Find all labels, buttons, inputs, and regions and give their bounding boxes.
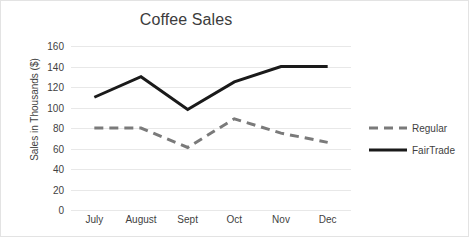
legend-swatch-regular <box>369 123 407 133</box>
legend-item-fairtrade[interactable]: FairTrade <box>369 139 455 161</box>
series-lines <box>71 46 351 210</box>
series-line-regular <box>94 119 327 148</box>
plot-area: 020406080100120140160 JulyAugustSeptOctN… <box>71 46 351 210</box>
legend-label: FairTrade <box>412 145 455 156</box>
y-axis-title: Sales in Thousands ($) <box>29 30 40 190</box>
y-axis-tick-label: 0 <box>58 205 64 216</box>
y-axis-tick-label: 80 <box>53 123 64 134</box>
y-axis-tick-label: 60 <box>53 143 64 154</box>
chart-card: Coffee Sales Sales in Thousands ($) 0204… <box>0 0 469 237</box>
x-axis-tick-label: August <box>125 214 156 225</box>
chart-title: Coffee Sales <box>1 11 371 29</box>
legend-swatch-fairtrade <box>369 145 407 155</box>
legend-item-regular[interactable]: Regular <box>369 117 455 139</box>
x-axis-tick-label: Nov <box>272 214 290 225</box>
x-axis-tick-label: July <box>85 214 103 225</box>
x-axis-tick-label: Dec <box>319 214 337 225</box>
legend-label: Regular <box>412 123 447 134</box>
chart-legend: RegularFairTrade <box>369 117 455 161</box>
y-axis-tick-label: 100 <box>47 102 64 113</box>
y-axis-tick-label: 40 <box>53 164 64 175</box>
y-axis-tick-label: 120 <box>47 82 64 93</box>
gridline <box>71 210 351 211</box>
y-axis-tick-label: 160 <box>47 41 64 52</box>
y-axis-tick-label: 20 <box>53 184 64 195</box>
x-axis-tick-label: Oct <box>227 214 243 225</box>
x-axis-tick-label: Sept <box>177 214 198 225</box>
series-line-fairtrade <box>94 67 327 110</box>
y-axis-tick-label: 140 <box>47 61 64 72</box>
